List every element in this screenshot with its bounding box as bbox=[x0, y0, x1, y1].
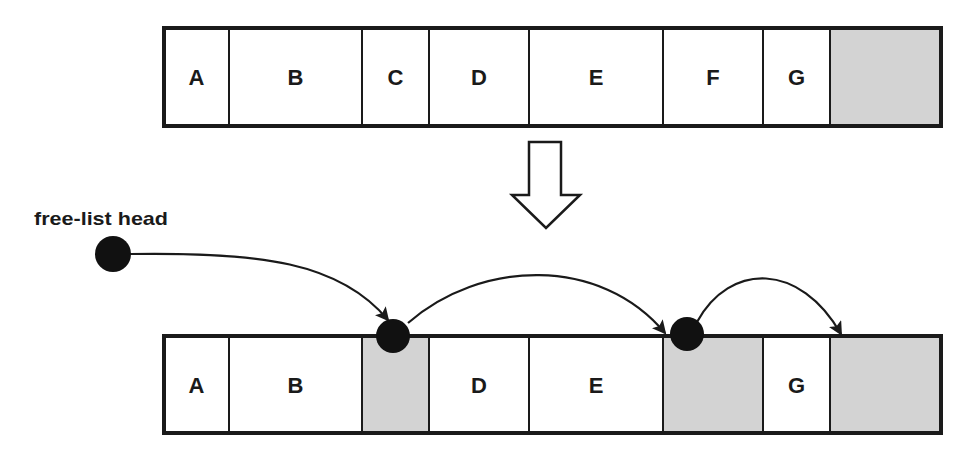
block-label: G bbox=[788, 373, 805, 398]
block-label: D bbox=[471, 65, 487, 90]
block-cell bbox=[663, 336, 763, 433]
free-list-head-label: free-list head bbox=[34, 208, 168, 229]
memory-block-a: A bbox=[164, 28, 229, 126]
memory-block-g: G bbox=[763, 336, 830, 433]
block-label: A bbox=[189, 373, 205, 398]
memory-block-b: B bbox=[229, 28, 362, 126]
next-pointer-arrow-1 bbox=[408, 275, 665, 333]
block-label: F bbox=[706, 65, 719, 90]
free-memory-block bbox=[663, 336, 763, 433]
block-cell bbox=[830, 336, 941, 433]
block-label: A bbox=[189, 65, 205, 90]
block-label: B bbox=[288, 65, 304, 90]
memory-block-f: F bbox=[663, 28, 763, 126]
free-list-diagram: ABCDEFG ABDEG free-list head bbox=[0, 0, 965, 459]
memory-block-e: E bbox=[529, 336, 663, 433]
memory-block-g: G bbox=[763, 28, 830, 126]
memory-block-d: D bbox=[429, 336, 529, 433]
free-block-node-icon bbox=[376, 319, 410, 353]
memory-block-e: E bbox=[529, 28, 663, 126]
memory-block-a: A bbox=[164, 336, 229, 433]
free-list-head-node-icon bbox=[95, 236, 131, 272]
memory-before-compaction: ABCDEFG bbox=[164, 28, 941, 126]
memory-after-free: ABDEG bbox=[164, 336, 941, 433]
free-block-node-icon bbox=[670, 317, 704, 351]
block-label: E bbox=[589, 65, 604, 90]
block-label: E bbox=[589, 373, 604, 398]
memory-block-c: C bbox=[362, 28, 429, 126]
free-memory-block bbox=[830, 28, 941, 126]
block-cell bbox=[830, 28, 941, 126]
block-label: C bbox=[388, 65, 404, 90]
block-label: D bbox=[471, 373, 487, 398]
block-label: G bbox=[788, 65, 805, 90]
head-pointer-arrow bbox=[130, 254, 388, 320]
down-arrow-icon bbox=[512, 142, 580, 228]
memory-block-d: D bbox=[429, 28, 529, 126]
free-memory-block bbox=[830, 336, 941, 433]
next-pointer-arrow-2 bbox=[697, 278, 841, 334]
block-label: B bbox=[288, 373, 304, 398]
memory-block-b: B bbox=[229, 336, 362, 433]
